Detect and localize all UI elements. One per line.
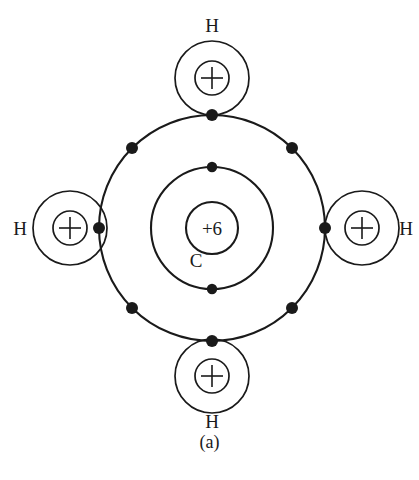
hydrogen-label-bottom: H bbox=[205, 411, 219, 432]
hydrogen-label-right: H bbox=[399, 218, 413, 239]
electron-shell-diagram: +6 C H H H H (a) bbox=[0, 0, 419, 480]
electron-dot bbox=[286, 142, 298, 154]
electron-dot bbox=[207, 284, 217, 294]
carbon-nucleus-charge-label: +6 bbox=[202, 218, 222, 239]
hydrogen-label-left: H bbox=[13, 218, 27, 239]
hydrogen-label-top: H bbox=[205, 15, 219, 36]
electron-dot bbox=[207, 162, 217, 172]
diagram-canvas: +6 C H H H H bbox=[0, 0, 419, 480]
electron-dot bbox=[126, 142, 138, 154]
electron-dot bbox=[286, 302, 298, 314]
electron-dot bbox=[206, 335, 218, 347]
figure-caption: (a) bbox=[0, 432, 419, 453]
electron-dot bbox=[93, 222, 105, 234]
electron-dot bbox=[319, 222, 331, 234]
carbon-element-symbol: C bbox=[190, 250, 203, 271]
electron-dot bbox=[126, 302, 138, 314]
electron-dot bbox=[206, 109, 218, 121]
